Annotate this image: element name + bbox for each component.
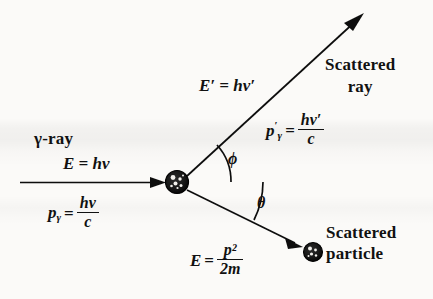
incident-ray-arrow	[20, 177, 166, 188]
incident-momentum-label: pγ = hν c	[48, 196, 99, 231]
theta-angle-label: θ	[257, 195, 265, 211]
incident-momentum-equals: =	[64, 205, 74, 222]
incident-momentum-fraction: hν c	[77, 195, 99, 230]
scattered-particle-energy-symbol: E	[190, 252, 201, 269]
phi-angle-label: ϕ	[228, 151, 237, 167]
scattered-particle-energy-equals: =	[204, 252, 214, 269]
incident-momentum-subscript: γ	[57, 211, 62, 223]
scattered-particle-energy-fraction: p² 2m	[217, 242, 243, 277]
incident-energy-label: E = hν	[63, 155, 110, 172]
incident-energy-expression: E = hν	[63, 155, 110, 172]
scattered-ray-momentum-equals: =	[285, 122, 295, 139]
scattered-particle-energy-label: E = p² 2m	[190, 243, 243, 278]
recoil-particle-ball	[304, 243, 323, 262]
compton-scattering-figure: γ-ray E = hν pγ = hν c E′ = hν′ p′γ = hν…	[0, 0, 433, 299]
scattered-ray-momentum-symbol: p′γ	[266, 120, 282, 141]
scattered-ray-momentum-subscript: γ	[278, 129, 283, 141]
incident-momentum-denominator: c	[77, 213, 99, 230]
scattered-ray-energy-label: E′ = hν′	[199, 77, 255, 94]
scattering-center-ball	[166, 171, 189, 194]
scattered-particle-arrow	[187, 190, 303, 249]
incident-momentum-symbol: pγ	[48, 204, 61, 223]
scattered-particle-caption-line2: particle	[326, 245, 383, 262]
scattered-ray-caption: Scattered ray	[325, 56, 395, 95]
scattered-ray-momentum-denominator: c	[298, 130, 325, 147]
gamma-ray-label: γ-ray	[34, 130, 73, 147]
scattered-ray-momentum-numerator: hν′	[298, 112, 325, 130]
scattered-ray-momentum-label: p′γ = hν′ c	[266, 113, 324, 148]
scattered-particle-energy-numerator: p²	[217, 242, 243, 260]
incident-momentum-numerator: hν	[77, 195, 99, 213]
scattered-ray-momentum-fraction: hν′ c	[298, 112, 325, 147]
scattered-ray-caption-line2: ray	[325, 78, 395, 95]
scattered-particle-caption-line1: Scattered	[326, 224, 396, 241]
scattered-ray-caption-line1: Scattered	[325, 56, 395, 73]
scattered-particle-energy-denominator: 2m	[217, 260, 243, 277]
